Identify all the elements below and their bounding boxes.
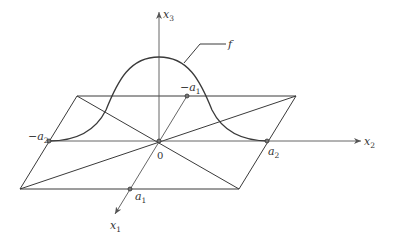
f-leader-line <box>184 44 226 63</box>
origin-label: 0 <box>157 150 163 161</box>
neg-a1-point <box>185 94 189 98</box>
a1-label: a1 <box>135 190 146 205</box>
a2-label: a2 <box>268 145 280 160</box>
neg-a2-label: −a2 <box>28 130 49 145</box>
function-f-label: f <box>227 38 234 51</box>
diagram-canvas: x3 x2 x1 f 0 −a1 a1 −a2 a2 <box>0 0 393 241</box>
a1-point <box>128 187 132 191</box>
x3-axis-label: x3 <box>163 8 174 23</box>
x2-axis-label: x2 <box>364 135 375 150</box>
a2-point <box>265 139 269 143</box>
x1-axis <box>115 96 187 214</box>
x1-axis-label: x1 <box>110 219 121 234</box>
bump-function-diagram: x3 x2 x1 f 0 −a1 a1 −a2 a2 <box>0 0 393 241</box>
neg-a1-label: −a1 <box>180 81 201 96</box>
origin-point <box>157 139 161 143</box>
